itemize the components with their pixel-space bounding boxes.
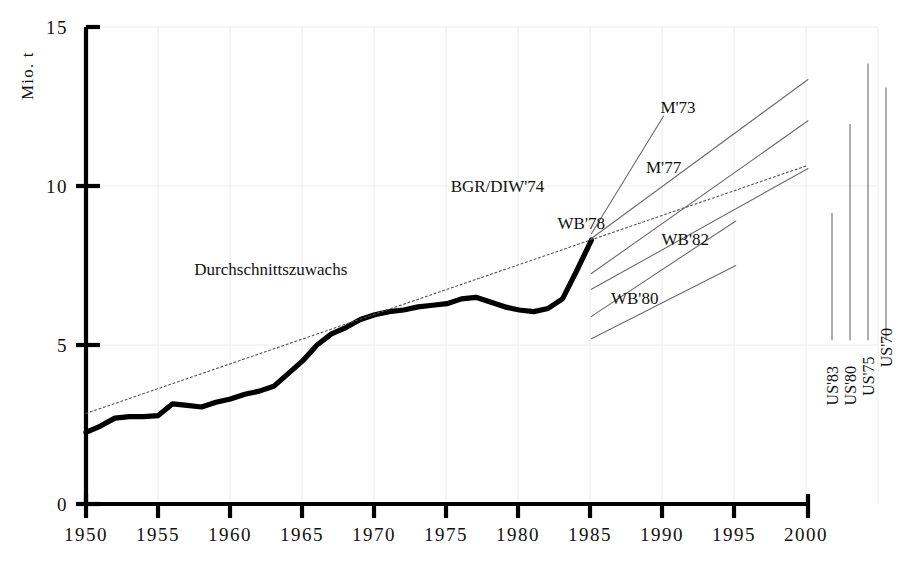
x-tick-label-1950: 1950: [64, 524, 108, 545]
plot-layer: [86, 64, 886, 433]
x-tick-label-1990: 1990: [640, 524, 684, 545]
chart-canvas: 15 10 5 0 Mio. t 1950 1955 1960 1965 197…: [0, 0, 907, 568]
series-line-m-73: [591, 79, 808, 238]
y-tick-label-5: 5: [57, 335, 68, 356]
annotation-label-bgr-diw-74: BGR/DIW'74: [451, 177, 545, 196]
x-axis: [86, 494, 808, 518]
chart-figure: 15 10 5 0 Mio. t 1950 1955 1960 1965 197…: [0, 0, 907, 568]
annotation-label-m-73: M'73: [660, 98, 695, 117]
x-tick-label-1985: 1985: [568, 524, 612, 545]
y-tick-label-0: 0: [57, 494, 68, 515]
annotation-label-m-77: M'77: [646, 158, 682, 177]
annotation-label-wb-78: WB'78: [558, 214, 605, 233]
series-line-m-77: [591, 121, 808, 274]
x-tick-label-1955: 1955: [136, 524, 180, 545]
series-line-durchschnittszuwachs: [86, 165, 808, 413]
y-axis-title: Mio. t: [18, 51, 37, 100]
x-tick-label-1970: 1970: [352, 524, 396, 545]
x-tick-label-1975: 1975: [424, 524, 468, 545]
y-tick-label-15: 15: [46, 17, 68, 38]
annotation-label-us-75: US'75: [860, 357, 877, 396]
x-tick-label-1960: 1960: [208, 524, 252, 545]
annotation-label-us-70: US'70: [878, 328, 895, 367]
annotation-label-durchschnittszuwachs: Durchschnittszuwachs: [194, 260, 347, 279]
x-tick-label-1980: 1980: [496, 524, 540, 545]
x-tick-label-1995: 1995: [712, 524, 756, 545]
x-tick-label-2000: 2000: [784, 524, 828, 545]
annotation-label-wb-80: WB'80: [611, 289, 658, 308]
annotation-label-wb-82: WB'82: [662, 230, 709, 249]
annotation-label-us-80: US'80: [842, 366, 859, 405]
y-tick-label-10: 10: [46, 176, 68, 197]
x-tick-label-1965: 1965: [280, 524, 324, 545]
annotation-label-us-83: US'83: [824, 366, 841, 405]
annotation-layer: DurchschnittszuwachsBGR/DIW'74M'73M'77WB…: [194, 98, 895, 406]
